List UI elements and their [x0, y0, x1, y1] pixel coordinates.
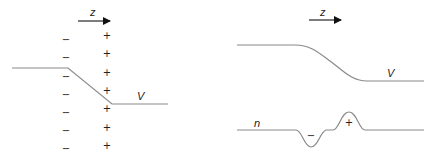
negative-sign: − [62, 71, 70, 82]
left-v-label: V [137, 90, 146, 102]
positive-sign: + [103, 85, 111, 96]
negative-sign: − [62, 125, 70, 136]
positive-sign: + [103, 140, 111, 151]
negative-sign: − [62, 107, 70, 118]
positive-sign: + [103, 103, 111, 114]
negative-sign: − [62, 89, 70, 100]
positive-sign: + [103, 48, 111, 59]
negative-charge-column: − − − − − − − [62, 34, 70, 154]
positive-sign: + [103, 67, 111, 78]
dip-negative-sign: − [307, 130, 315, 141]
positive-charge-column: + + + + + + + [103, 30, 111, 151]
positive-sign: + [103, 122, 111, 133]
negative-sign: − [62, 34, 70, 45]
bump-positive-sign: + [345, 117, 353, 128]
negative-sign: − [62, 52, 70, 63]
right-density-curve [237, 112, 424, 147]
right-n-label: n [254, 117, 260, 129]
negative-sign: − [62, 143, 70, 154]
right-z-label: z [319, 6, 326, 18]
right-panel: z V n − + [237, 6, 424, 147]
left-potential-curve [12, 68, 168, 104]
right-potential-curve [237, 45, 424, 81]
diagram-canvas: z − − − − − − − + + + + + + + V z V n [0, 0, 434, 158]
positive-sign: + [103, 30, 111, 41]
left-panel: z − − − − − − − + + + + + + + V [12, 6, 168, 154]
right-v-label: V [387, 67, 396, 79]
left-z-label: z [89, 6, 96, 18]
